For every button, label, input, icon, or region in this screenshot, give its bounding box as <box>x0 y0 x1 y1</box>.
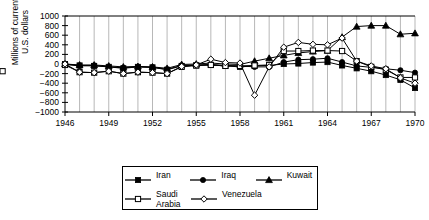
data-point-marker <box>208 56 214 62</box>
x-tick-label: 1961 <box>274 118 293 128</box>
legend-label-iraq: Iraq <box>221 171 236 181</box>
y-tick-label: −800 <box>40 97 59 107</box>
data-point-marker <box>0 69 5 74</box>
legend-item-iraq[interactable]: Iraq <box>188 171 253 184</box>
legend-item-kuwait[interactable]: Kuwait <box>254 171 317 184</box>
data-point-marker <box>135 177 140 182</box>
y-tick-label: 800 <box>45 21 59 31</box>
data-point-marker <box>135 196 140 201</box>
x-tick-label: 1955 <box>187 118 206 128</box>
data-point-marker <box>296 48 301 53</box>
data-point-marker <box>325 56 330 61</box>
chart-plot-area: 10008006004002000−200−400−600−800−1000 1… <box>0 0 429 165</box>
data-point-marker <box>296 57 301 62</box>
data-point-marker <box>383 72 388 77</box>
data-point-marker <box>310 41 316 47</box>
y-tick-label: 600 <box>45 30 59 40</box>
y-tick-label: −400 <box>40 78 59 88</box>
legend-label-iran: Iran <box>156 171 171 181</box>
y-tick-label: −200 <box>40 69 59 79</box>
data-point-marker <box>201 177 206 182</box>
legend-marker-filled-triangle <box>254 172 284 184</box>
data-point-marker <box>412 30 419 36</box>
data-point-marker <box>398 68 403 73</box>
x-tick-label: 1970 <box>406 118 425 128</box>
data-point-marker <box>281 59 286 64</box>
series-layer <box>0 22 418 98</box>
data-point-marker <box>208 62 213 67</box>
legend-item-saudi-arabia[interactable]: Saudi Arabia <box>123 190 189 209</box>
data-point-marker <box>252 63 257 68</box>
y-tick-label: 400 <box>45 40 59 50</box>
legend-item-venezuela[interactable]: Venezuela <box>189 190 299 203</box>
data-point-marker <box>251 92 257 98</box>
x-tick-label: 1952 <box>143 118 162 128</box>
data-point-marker <box>324 42 330 48</box>
y-tick-label: −600 <box>40 88 59 98</box>
data-point-marker <box>412 75 417 80</box>
x-tick-label: 1949 <box>99 118 118 128</box>
legend-marker-open-diamond <box>189 191 219 203</box>
data-point-marker <box>295 39 301 45</box>
x-tick-label: 1946 <box>56 118 75 128</box>
legend-label-arabia: Arabia <box>156 200 181 210</box>
data-point-marker <box>201 196 207 202</box>
chart-figure: Millions of current U.S. dollars 1000800… <box>0 0 429 220</box>
data-point-marker <box>325 48 330 53</box>
data-point-marker <box>310 57 315 62</box>
legend-marker-filled-circle <box>188 172 218 184</box>
y-tick-label: 0 <box>54 59 59 69</box>
y-tick-label: 200 <box>45 49 59 59</box>
x-tick-label: 1964 <box>318 118 337 128</box>
data-point-marker <box>339 59 344 64</box>
legend-label-kuwait: Kuwait <box>287 171 313 181</box>
legend-marker-filled-square <box>123 172 153 184</box>
data-point-marker <box>339 48 344 53</box>
chart-legend: Iran Iraq Kuwait Saudi Arab <box>122 166 318 210</box>
legend-row-2: Saudi Arabia Venezuela <box>123 190 317 209</box>
legend-row-1: Iran Iraq Kuwait <box>123 171 317 190</box>
data-point-marker <box>310 48 315 53</box>
legend-marker-open-square <box>123 191 153 203</box>
x-tick-label: 1958 <box>231 118 250 128</box>
x-tick-label: 1967 <box>362 118 381 128</box>
y-tick-label: 1000 <box>40 11 59 21</box>
legend-item-iran[interactable]: Iran <box>123 171 188 184</box>
y-tick-label: −1000 <box>35 107 59 117</box>
x-axis-ticks: 194619491952195519581961196419671970 <box>56 112 425 128</box>
legend-label-venezuela: Venezuela <box>222 190 262 200</box>
